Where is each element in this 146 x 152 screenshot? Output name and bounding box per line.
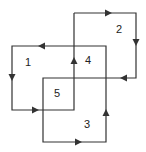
loop-lines	[0, 0, 146, 152]
region-label-5: 5	[54, 88, 60, 99]
region-label-1: 1	[25, 57, 31, 68]
arrow-up-icon	[71, 57, 78, 64]
loop-diagram: 1 2 4 5 3	[0, 0, 146, 152]
arrow-down-icon	[133, 39, 140, 46]
region-label-2: 2	[116, 24, 122, 35]
arrow-down-icon	[9, 74, 16, 81]
arrow-left-icon	[38, 43, 45, 50]
region-label-3: 3	[84, 119, 90, 130]
arrow-right-icon	[105, 10, 112, 17]
arrow-right-icon	[75, 139, 82, 146]
arrow-left-icon	[120, 75, 127, 82]
region-label-4: 4	[85, 55, 91, 66]
arrow-right-icon	[32, 107, 39, 114]
arrow-up-icon	[103, 109, 110, 116]
